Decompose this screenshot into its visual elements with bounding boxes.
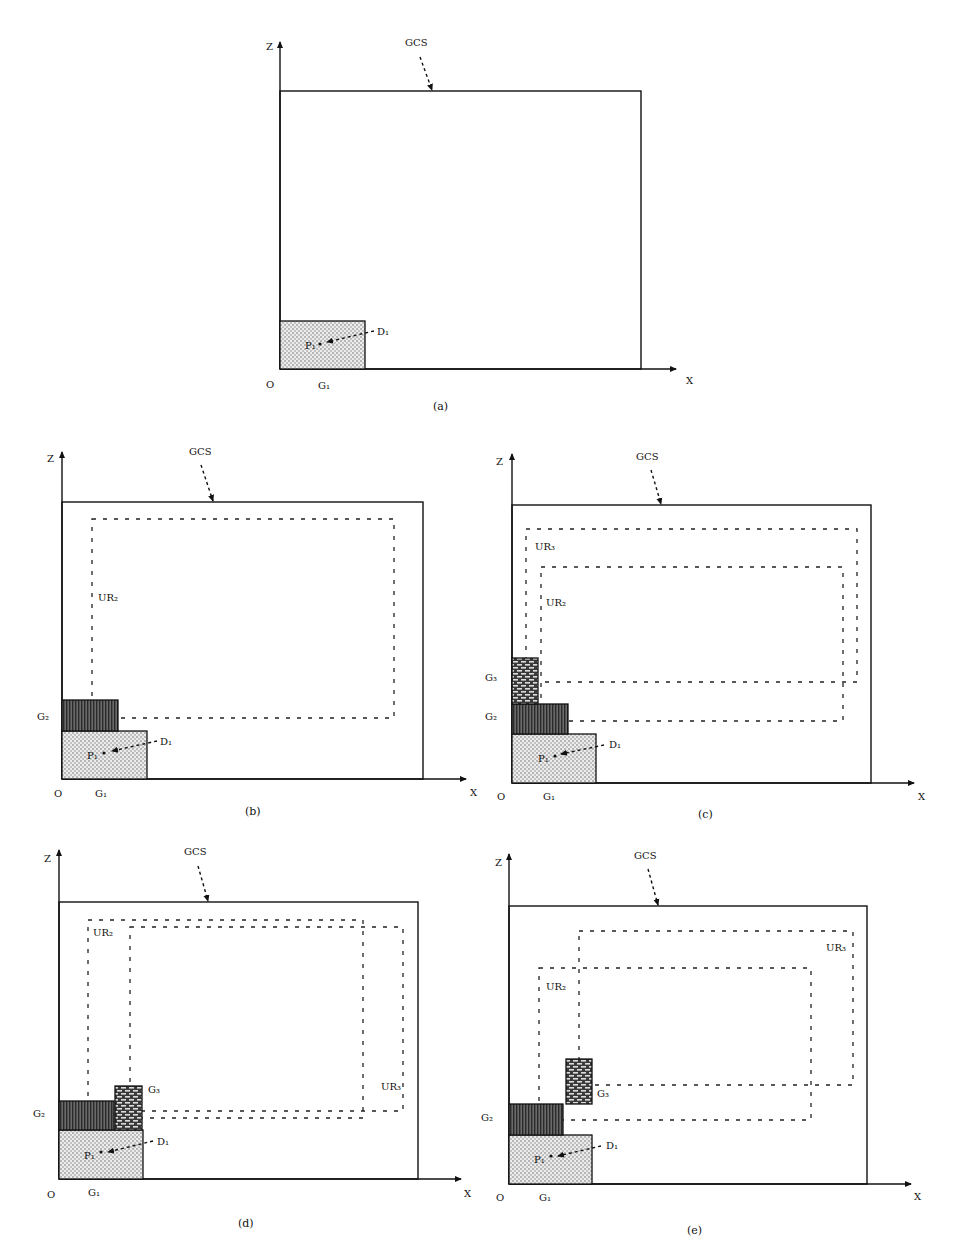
g1-label: G₁ xyxy=(95,788,107,799)
gcs-label: GCS xyxy=(636,451,659,462)
panel-caption: (d) xyxy=(238,1217,254,1230)
box-g1 xyxy=(280,321,365,369)
panel-caption: (e) xyxy=(687,1224,702,1237)
panel-c: ZXOGCSUR₃UR₂G₁G₂G₃D₁P₁(c) xyxy=(485,451,926,821)
g2-label: G₂ xyxy=(485,711,497,722)
x-axis-label: X xyxy=(464,1188,472,1199)
p1-label: P₁ xyxy=(84,1150,95,1161)
box-g2 xyxy=(512,704,568,734)
z-axis-label: Z xyxy=(496,456,503,467)
g2-label: G₂ xyxy=(37,711,49,722)
gcs-label: GCS xyxy=(405,37,428,48)
panel-e: ZXOGCSUR₃UR₂G₁G₂G₃D₁P₁(e) xyxy=(481,850,922,1237)
panel-caption: (c) xyxy=(698,808,713,821)
d1-label: D₁ xyxy=(157,1136,169,1147)
ur2-label: UR₂ xyxy=(93,927,113,938)
g1-label: G₁ xyxy=(543,791,555,802)
figure-canvas: ZXOGCSG₁D₁P₁(a)ZXOGCSUR₂G₁G₂D₁P₁(b)ZXOGC… xyxy=(0,0,958,1255)
box-g2 xyxy=(62,700,118,731)
z-axis-label: Z xyxy=(44,853,51,864)
ur3-label: UR₃ xyxy=(381,1081,401,1092)
g3-label: G₃ xyxy=(485,672,497,683)
z-axis-label: Z xyxy=(266,41,273,52)
p1-point xyxy=(99,1150,102,1153)
g3-label: G₃ xyxy=(597,1088,609,1099)
p1-label: P₁ xyxy=(534,1154,545,1165)
p1-point xyxy=(549,1154,552,1157)
p1-label: P₁ xyxy=(87,750,98,761)
box-g2 xyxy=(509,1104,563,1135)
p1-point xyxy=(553,754,556,757)
gcs-pointer-arrow xyxy=(651,470,661,504)
x-axis-label: X xyxy=(686,375,694,386)
ur3-region xyxy=(130,927,403,1111)
d1-label: D₁ xyxy=(160,736,172,747)
p1-point xyxy=(318,342,321,345)
gcs-label: GCS xyxy=(189,446,212,457)
g2-label: G₂ xyxy=(33,1108,45,1119)
g1-label: G₁ xyxy=(88,1187,100,1198)
d1-label: D₁ xyxy=(606,1140,618,1151)
panel-caption: (a) xyxy=(433,400,448,413)
origin-label: O xyxy=(47,1189,55,1200)
gcs-pointer-arrow xyxy=(420,57,432,90)
origin-label: O xyxy=(54,788,62,799)
ur3-region xyxy=(526,529,857,682)
x-axis-label: X xyxy=(470,787,478,798)
box-g1 xyxy=(62,731,147,779)
box-g3 xyxy=(115,1086,142,1130)
z-axis-label: Z xyxy=(47,453,54,464)
panels-group: ZXOGCSG₁D₁P₁(a)ZXOGCSUR₂G₁G₂D₁P₁(b)ZXOGC… xyxy=(33,37,926,1237)
ur2-region xyxy=(92,519,394,718)
box-g1 xyxy=(59,1130,143,1179)
gcs-pointer-arrow xyxy=(201,465,213,501)
x-axis-label: X xyxy=(918,791,926,802)
ur2-label: UR₂ xyxy=(546,981,566,992)
g3-label: G₃ xyxy=(148,1084,160,1095)
p1-label: P₁ xyxy=(538,753,549,764)
ur3-region xyxy=(579,931,853,1085)
gcs-label: GCS xyxy=(634,850,657,861)
ur3-label: UR₃ xyxy=(826,942,846,953)
x-axis-label: X xyxy=(914,1191,922,1202)
p1-label: P₁ xyxy=(305,340,316,351)
box-g2 xyxy=(59,1101,114,1130)
d1-label: D₁ xyxy=(377,326,389,337)
gcs-label: GCS xyxy=(184,846,207,857)
ur3-label: UR₃ xyxy=(535,541,555,552)
ur2-label: UR₂ xyxy=(546,597,566,608)
g1-label: G₁ xyxy=(539,1192,551,1203)
ur2-region xyxy=(541,567,843,721)
g1-label: G₁ xyxy=(318,380,330,391)
panel-d: ZXOGCSUR₂UR₃G₁G₂G₃D₁P₁(d) xyxy=(33,846,472,1230)
box-g3 xyxy=(566,1059,592,1104)
z-axis-label: Z xyxy=(495,857,502,868)
d1-label: D₁ xyxy=(609,739,621,750)
origin-label: O xyxy=(266,379,274,390)
p1-point xyxy=(102,751,105,754)
box-g1 xyxy=(512,734,596,783)
origin-label: O xyxy=(497,791,505,802)
panel-a: ZXOGCSG₁D₁P₁(a) xyxy=(266,37,694,413)
gcs-pointer-arrow xyxy=(648,869,658,905)
panel-b: ZXOGCSUR₂G₁G₂D₁P₁(b) xyxy=(37,446,478,818)
ur2-label: UR₂ xyxy=(98,592,118,603)
gcs-pointer-arrow xyxy=(198,866,208,901)
g2-label: G₂ xyxy=(481,1112,493,1123)
box-g3 xyxy=(512,658,538,704)
origin-label: O xyxy=(496,1192,504,1203)
box-g1 xyxy=(509,1135,592,1184)
panel-caption: (b) xyxy=(245,805,261,818)
